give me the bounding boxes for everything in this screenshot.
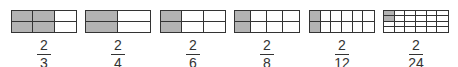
area-model-3 [11,10,77,33]
numerator: 2 [234,38,300,52]
grid-cell [395,27,406,32]
grid-cell [235,22,251,33]
fraction-label: 23 [11,38,77,67]
area-model-8 [234,10,300,33]
grid-cell [161,22,182,33]
fraction-label: 212 [309,38,375,67]
grid-cell [118,11,150,22]
grid-cell [204,11,225,22]
grid-cell [161,11,182,22]
grid-cell [310,22,321,33]
grid-cell [331,11,342,22]
grid-cell [405,27,416,32]
grid-cell [12,11,33,22]
grid-cell [118,22,150,33]
numerator: 2 [85,38,151,52]
grid-cell [353,11,364,22]
area-model-24 [383,10,449,33]
grid-cell [204,22,225,33]
grid-cell [437,27,448,32]
grid-cell [353,22,364,33]
grid-cell [363,11,374,22]
grid-cell [33,22,54,33]
grid-cell [283,22,299,33]
grid-cell [251,22,267,33]
grid-cell [267,11,283,22]
grid-cell [416,27,427,32]
denominator: 4 [85,56,151,67]
grid-cell [33,11,54,22]
denominator: 8 [234,56,300,67]
grid-cell [182,22,203,33]
area-model-6 [160,10,226,33]
grid-cell [55,22,76,33]
grid-cell [310,11,321,22]
numerator: 2 [309,38,375,52]
denominator: 3 [11,56,77,67]
grid-cell [363,22,374,33]
grid-cell [321,11,332,22]
grid-cell [342,11,353,22]
grid-cell [342,22,353,33]
grid-cell [235,11,251,22]
grid-cell [384,27,395,32]
fraction-label: 24 [85,38,151,67]
grid-cell [427,27,438,32]
numerator: 2 [11,38,77,52]
denominator: 6 [160,56,226,67]
fraction-label: 26 [160,38,226,67]
grid-cell [331,22,342,33]
grid-cell [321,22,332,33]
grid-cell [12,22,33,33]
grid-cell [251,11,267,22]
grid-cell [182,11,203,22]
grid-cell [283,11,299,22]
area-model-12 [309,10,375,33]
grid-cell [55,11,76,22]
grid-cell [86,11,118,22]
fraction-label: 224 [383,38,449,67]
grid-cell [267,22,283,33]
numerator: 2 [160,38,226,52]
area-model-4 [85,10,151,33]
numerator: 2 [383,38,449,52]
grid-cell [86,22,118,33]
denominator: 12 [309,56,375,67]
fraction-label: 28 [234,38,300,67]
denominator: 24 [383,56,449,67]
